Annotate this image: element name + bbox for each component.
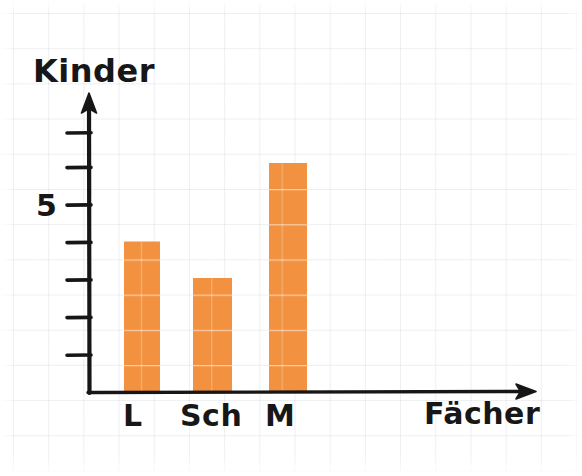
y-axis-label: Kinder: [33, 52, 155, 90]
x-category-label-M: M: [265, 398, 295, 433]
hand-drawn-bar-chart-screenshot: Kinder 5 L Sch M Fächer: [0, 0, 582, 476]
y-tick-label-5: 5: [36, 188, 57, 223]
bar-M[interactable]: [269, 163, 307, 392]
x-axis-line: [88, 392, 523, 393]
x-category-label-Sch: Sch: [180, 398, 242, 433]
bar-Sch[interactable]: [193, 278, 232, 392]
x-axis-label: Fächer: [424, 396, 540, 431]
y-axis-line: [89, 105, 90, 393]
x-category-label-L: L: [123, 398, 143, 433]
bar-L[interactable]: [124, 242, 160, 393]
bars-group: [124, 163, 307, 392]
